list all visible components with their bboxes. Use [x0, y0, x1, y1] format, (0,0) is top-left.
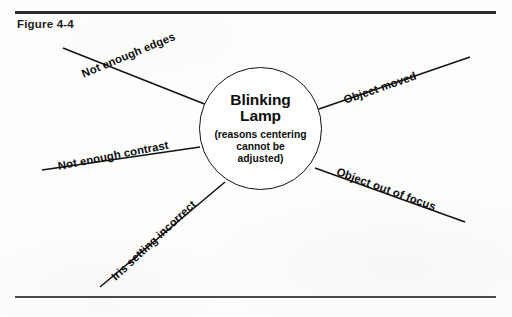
center-subtitle-line1: (reasons centering	[214, 129, 306, 141]
center-subtitle: (reasons centering cannot be adjusted)	[211, 129, 309, 165]
center-title-line1: Blinking	[230, 92, 290, 109]
bottom-rule-divider	[15, 296, 496, 298]
center-subtitle-line3: adjusted)	[214, 153, 306, 165]
center-subtitle-line2: cannot be	[214, 141, 306, 153]
center-title-line2: Lamp	[240, 108, 281, 125]
center-node-text: Blinking Lamp (reasons centering cannot …	[199, 67, 322, 190]
figure-page: Figure 4-4 Blinking Lamp (reasons center…	[0, 0, 512, 317]
